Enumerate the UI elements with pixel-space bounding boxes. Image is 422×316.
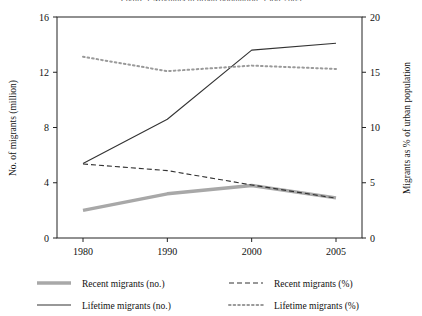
- right-tick-label: 0: [370, 233, 375, 244]
- left-axis-tick-labels: 0481216: [39, 12, 49, 244]
- left-tick-label: 0: [44, 233, 49, 244]
- chart-legend: Recent migrants (no.)Recent migrants (%)…: [37, 279, 359, 312]
- right-axis-tick-labels: 05101520: [370, 12, 380, 244]
- left-tick-label: 4: [44, 177, 49, 188]
- chart-canvas: 0481216 05101520 1980199020002005 No. of…: [0, 0, 422, 316]
- x-axis-ticks: [83, 238, 336, 242]
- x-tick-label: 1980: [73, 246, 93, 257]
- right-axis-title: Migrants as % of urban population: [402, 62, 412, 194]
- chart-figure: Figure 1 Migrants in urban population, 1…: [0, 0, 422, 316]
- left-tick-label: 8: [44, 122, 49, 133]
- left-tick-label: 12: [39, 67, 49, 78]
- right-tick-label: 20: [370, 12, 380, 23]
- left-axis-title: No. of migrants (million): [8, 80, 19, 176]
- right-tick-label: 10: [370, 122, 380, 133]
- legend-label-lifetime-migrants: Lifetime migrants (%): [274, 301, 359, 312]
- legend-label-lifetime-migrants-no: Lifetime migrants (no.): [82, 301, 171, 312]
- x-tick-label: 2005: [326, 246, 346, 257]
- x-tick-label: 1990: [157, 246, 177, 257]
- right-tick-label: 5: [370, 177, 375, 188]
- legend-label-recent-migrants-no: Recent migrants (no.): [82, 279, 165, 290]
- legend-label-recent-migrants: Recent migrants (%): [274, 279, 353, 290]
- x-tick-label: 2000: [242, 246, 262, 257]
- left-axis-ticks: [53, 17, 57, 238]
- right-tick-label: 15: [370, 67, 380, 78]
- left-tick-label: 16: [39, 12, 49, 23]
- right-axis-ticks: [362, 17, 366, 238]
- x-axis-tick-labels: 1980199020002005: [73, 246, 346, 257]
